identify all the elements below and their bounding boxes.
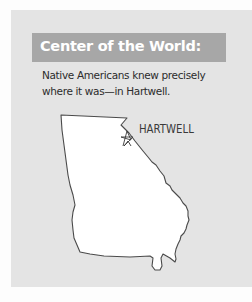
- georgia-map: [0, 0, 252, 302]
- hartwell-label: HARTWELL: [139, 121, 194, 136]
